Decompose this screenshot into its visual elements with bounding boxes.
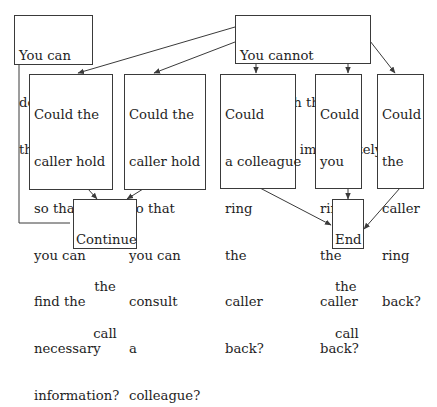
node-text: caller xyxy=(225,294,291,310)
node-text: ring xyxy=(225,201,291,217)
node-text: caller hold xyxy=(129,154,201,170)
node-text: ring xyxy=(382,248,419,264)
arrow-cannot-to-hold-consult xyxy=(154,42,235,73)
node-caller-ring: Could the caller ring back? xyxy=(377,74,424,189)
node-end-call: End the call xyxy=(332,199,364,249)
node-you-ring: Could you ring the caller back? xyxy=(315,74,362,189)
node-text: Continue xyxy=(76,232,134,248)
node-text: Could xyxy=(382,107,419,123)
node-text: a xyxy=(129,341,201,357)
arrow-cannot-to-caller-ring xyxy=(370,41,395,73)
node-text: the xyxy=(225,248,291,264)
node-text: You can xyxy=(19,48,88,64)
arrow-cannot-to-hold-find xyxy=(78,27,235,73)
node-text: caller hold xyxy=(34,154,108,170)
node-text: the xyxy=(335,279,362,295)
node-text: you xyxy=(320,154,357,170)
node-text: call xyxy=(335,326,362,342)
node-text: so that xyxy=(129,201,201,217)
node-text: Could the xyxy=(129,107,201,123)
node-colleague-ring: Could a colleague ring the caller back? xyxy=(220,74,296,189)
node-text: You cannot xyxy=(240,48,366,64)
node-text: consult xyxy=(129,294,201,310)
node-text: the xyxy=(76,279,134,295)
node-text: you can xyxy=(129,248,201,264)
node-text: colleague? xyxy=(129,388,201,404)
node-text: End xyxy=(335,232,362,248)
node-text: call xyxy=(76,326,134,342)
node-hold-consult: Could the caller hold so that you can co… xyxy=(124,74,206,190)
node-text: caller xyxy=(382,201,419,217)
node-hold-find: Could the caller hold so that you can fi… xyxy=(29,74,113,190)
node-text: Could xyxy=(320,107,357,123)
node-text: back? xyxy=(382,294,419,310)
node-text: a colleague xyxy=(225,154,291,170)
node-text: back? xyxy=(225,341,291,357)
node-text: Could the xyxy=(34,107,108,123)
node-can-deal: You can deal with the problem xyxy=(14,15,93,65)
node-text: Could xyxy=(225,107,291,123)
node-text: the xyxy=(382,154,419,170)
node-cannot-deal: You cannot deal with the problem immedia… xyxy=(235,15,371,64)
node-continue-call: Continue the call xyxy=(73,199,137,249)
node-text: information? xyxy=(34,388,108,404)
